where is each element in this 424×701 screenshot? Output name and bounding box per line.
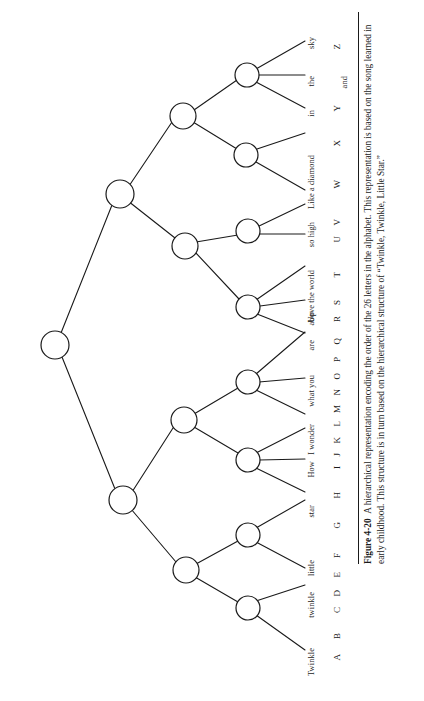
letter-label-c: C: [333, 607, 342, 613]
letter-label-o: O: [333, 373, 342, 380]
tree-node-l3-h: [236, 596, 260, 620]
letter-label-p: P: [333, 357, 342, 362]
letter-label-t: T: [333, 272, 342, 278]
lyric-label-how: How: [308, 461, 316, 478]
letter-label-n: N: [333, 389, 342, 396]
tree-node-l3-d: [236, 295, 260, 319]
lyric-label-star: star: [308, 505, 316, 518]
lyric-label-sky: sky: [308, 37, 316, 49]
letter-label-z: Z: [333, 44, 342, 50]
tree-node-l2-c: [171, 407, 197, 433]
letter-label-h: H: [333, 492, 342, 499]
extra-label-and: and: [341, 76, 349, 88]
tree-node-l2-a: [170, 103, 196, 129]
letter-label-x: X: [333, 140, 342, 147]
letter-label-d: D: [333, 590, 342, 597]
tree-node-l3-g: [236, 523, 260, 547]
letter-label-l: L: [333, 421, 342, 427]
lyric-label-the: the: [308, 76, 316, 87]
tree-node-l3-b: [234, 143, 258, 167]
lyric-label-like-a-diamond: Like a diamond: [308, 155, 316, 209]
letter-label-g: G: [333, 522, 342, 529]
lyric-label-in: in: [308, 110, 316, 117]
letter-label-u: U: [333, 236, 342, 243]
letter-label-v: V: [333, 219, 342, 226]
lyric-label-are: are: [308, 340, 316, 351]
letter-label-y: Y: [333, 105, 342, 112]
letter-label-b: B: [333, 633, 342, 639]
letter-label-j: J: [333, 453, 342, 457]
tree-node-l3-f: [236, 448, 260, 472]
tree-node-lower: [109, 486, 137, 514]
letter-label-w: W: [333, 180, 342, 189]
letter-label-q: Q: [333, 338, 342, 345]
tree-node-l2-d: [173, 557, 199, 583]
figure-caption: Figure 4-20 A hierarchical representatio…: [362, 12, 420, 564]
caption-text: A hierarchical representation encoding t…: [363, 25, 386, 565]
letter-label-a: A: [333, 654, 342, 661]
tree-node-l2-b: [172, 233, 198, 259]
caption-rule: [358, 12, 359, 564]
letter-label-m: M: [333, 405, 342, 413]
tree-node-l3-a: [235, 63, 259, 87]
letter-label-e: E: [333, 572, 342, 578]
lyric-label-little: little: [308, 560, 316, 576]
caption-spacer: [363, 514, 373, 519]
lyric-label-twinkle: Twinkle: [308, 648, 316, 676]
figure-number: Figure 4-20: [363, 518, 373, 564]
figure-4-20: TwinkletwinklelittlestarHowI wonderwhat …: [0, 0, 424, 701]
lyric-label-so-high: so high: [308, 222, 316, 247]
tree-node-l3-e: [236, 370, 260, 394]
lyric-label-what-you: what you: [308, 375, 316, 407]
tree-node-root: [41, 331, 69, 359]
letter-label-k: K: [333, 437, 342, 444]
letter-label-f: F: [333, 553, 342, 558]
letter-label-r: R: [333, 316, 342, 322]
letter-label-s: S: [333, 300, 342, 305]
hierarchy-tree-diagram: [0, 0, 340, 701]
tree-nodes: [41, 63, 260, 620]
lyric-label-twinkle: twinkle: [308, 592, 316, 618]
tree-node-l3-c: [236, 219, 260, 243]
lyric-label-above-the-world: above the world: [308, 270, 316, 325]
letter-label-i: I: [333, 466, 342, 469]
tree-node-upper: [106, 180, 134, 208]
lyric-label-i-wonder: I wonder: [308, 424, 316, 455]
